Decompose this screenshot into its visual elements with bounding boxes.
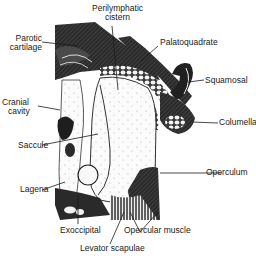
label-parotic-cartilage: Parotic cartilage [4,34,42,52]
label-exoccipital: Exoccipital [60,226,101,235]
label-operculum: Operculum [206,168,248,177]
label-perilymphatic-cistern: Perilymphatic cistern [92,4,143,22]
label-cartilage-line2: cartilage [4,43,42,52]
label-cistern-line2: cistern [92,13,143,22]
label-columella: Columella [219,118,256,127]
label-opercular-muscle: Opercular muscle [124,226,191,235]
label-squamosal: Squamosal [205,76,248,85]
label-levator-scapulae: Levator scapulae [80,244,145,253]
label-palatoquadrate: Palatoquadrate [160,38,218,47]
label-lagena: Lagena [20,185,48,194]
label-cranial-cavity: Cranial cavity [2,98,30,116]
label-cavity-line2: cavity [2,107,30,116]
diagram-figure: Perilymphatic cistern Parotic cartilage … [0,0,256,264]
label-saccule: Saccule [18,141,48,150]
